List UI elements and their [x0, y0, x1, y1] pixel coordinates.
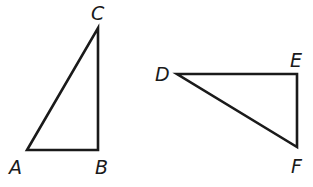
triangle-abc [27, 28, 98, 150]
vertex-label-d: D [155, 63, 170, 85]
triangles-diagram: A B C D E F [0, 0, 313, 187]
vertex-label-a: A [7, 156, 22, 178]
vertex-label-e: E [290, 49, 302, 71]
triangle-def [177, 74, 297, 147]
vertex-label-b: B [95, 156, 108, 178]
vertex-label-c: C [91, 2, 105, 24]
vertex-label-f: F [291, 155, 303, 177]
